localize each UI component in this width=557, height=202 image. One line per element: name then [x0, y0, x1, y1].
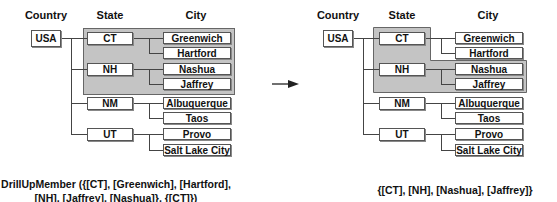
node-city-nashua: Nashua — [455, 63, 523, 75]
connector — [441, 103, 442, 118]
connector — [441, 134, 442, 150]
node-city-taos: Taos — [455, 112, 523, 124]
node-city-greenwich: Greenwich — [163, 32, 231, 44]
connector — [149, 150, 163, 151]
connector — [363, 103, 379, 104]
connector — [149, 53, 163, 54]
connector — [149, 38, 150, 53]
connector — [441, 84, 455, 85]
connector — [425, 38, 455, 39]
node-city-provo: Provo — [455, 128, 523, 140]
header-country: Country — [24, 9, 68, 21]
connector — [149, 84, 163, 85]
connector — [441, 38, 442, 53]
header-country: Country — [316, 9, 360, 21]
node-city-greenwich: Greenwich — [455, 32, 523, 44]
node-city-salt-lake-city: Salt Lake City — [163, 144, 231, 156]
caption-before-line2: [NH], [Jaffrey], [Nashua]}, {[CT]}) — [0, 191, 232, 202]
connector — [71, 103, 87, 104]
node-city-provo: Provo — [163, 128, 231, 140]
connector — [149, 103, 150, 118]
node-city-jaffrey: Jaffrey — [455, 78, 523, 90]
connector — [425, 103, 455, 104]
connector — [149, 134, 150, 150]
node-state-ut: UT — [379, 128, 425, 141]
header-state: State — [90, 9, 130, 21]
node-state-ct: CT — [379, 32, 425, 45]
connector — [425, 134, 455, 135]
node-state-nh: NH — [379, 63, 425, 76]
connector — [133, 103, 163, 104]
header-state: State — [382, 9, 422, 21]
node-state-nm: NM — [379, 97, 425, 110]
connector — [71, 38, 72, 134]
node-state-nm: NM — [87, 97, 133, 110]
connector — [363, 69, 379, 70]
connector — [441, 69, 442, 84]
node-city-jaffrey: Jaffrey — [163, 78, 231, 90]
caption-before-line1: DrillUpMember ({[CT], [Greenwich], [Hart… — [0, 177, 232, 192]
connector — [149, 69, 150, 84]
node-city-salt-lake-city: Salt Lake City — [455, 144, 523, 156]
node-state-ct: CT — [87, 32, 133, 45]
node-city-albuquerque: Albuquerque — [455, 97, 523, 109]
node-city-taos: Taos — [163, 112, 231, 124]
connector — [425, 69, 455, 70]
connector — [353, 38, 379, 39]
connector — [71, 134, 87, 135]
connector — [149, 118, 163, 119]
connector — [133, 134, 163, 135]
connector — [363, 134, 379, 135]
header-city: City — [468, 9, 508, 21]
node-city-hartford: Hartford — [455, 47, 523, 59]
connector — [441, 118, 455, 119]
node-state-nh: NH — [87, 63, 133, 76]
connector — [133, 38, 163, 39]
node-country-usa: USA — [31, 30, 61, 47]
connector — [61, 38, 87, 39]
node-state-ut: UT — [87, 128, 133, 141]
right-arrow-icon — [272, 79, 302, 89]
connector — [441, 53, 455, 54]
connector — [363, 38, 364, 134]
header-city: City — [176, 9, 216, 21]
connector — [133, 69, 163, 70]
node-country-usa: USA — [323, 30, 353, 47]
connector — [441, 150, 455, 151]
node-city-albuquerque: Albuquerque — [163, 97, 231, 109]
node-city-nashua: Nashua — [163, 63, 231, 75]
caption-after: {[CT], [NH], [Nashua], [Jaffrey]} — [360, 183, 550, 198]
connector — [71, 69, 87, 70]
node-city-hartford: Hartford — [163, 47, 231, 59]
